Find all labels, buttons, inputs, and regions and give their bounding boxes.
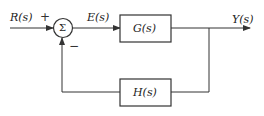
feedback-branch-line xyxy=(171,28,209,92)
plus-sign: + xyxy=(40,11,50,23)
sigma-symbol: Σ xyxy=(59,23,66,33)
forward-block-label: G(s) xyxy=(133,23,156,34)
feedback-block-label: H(s) xyxy=(133,87,157,98)
input-label: R(s) xyxy=(10,12,33,23)
output-label: Y(s) xyxy=(232,14,254,25)
minus-sign: − xyxy=(69,40,79,52)
error-label: E(s) xyxy=(87,12,109,23)
